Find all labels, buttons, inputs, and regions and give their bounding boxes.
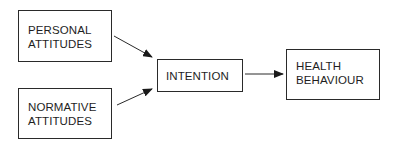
node-label-line: INTENTION (166, 69, 242, 83)
node-label-line: ATTITUDES (28, 37, 111, 51)
arrow-personal-to-intention (114, 36, 152, 57)
node-personal-attitudes: PERSONAL ATTITUDES (18, 10, 112, 62)
node-label-line: ATTITUDES (28, 114, 111, 128)
node-health-behaviour: HEALTH BEHAVIOUR (286, 49, 380, 100)
node-label-line: PERSONAL (28, 23, 111, 37)
arrow-normative-to-intention (117, 89, 152, 105)
diagram-canvas: PERSONAL ATTITUDES NORMATIVE ATTITUDES I… (0, 0, 394, 146)
node-intention: INTENTION (157, 59, 243, 92)
node-label-line: NORMATIVE (28, 100, 111, 114)
node-label-line: BEHAVIOUR (296, 73, 379, 87)
node-label-line: HEALTH (296, 59, 379, 73)
node-normative-attitudes: NORMATIVE ATTITUDES (18, 88, 112, 139)
